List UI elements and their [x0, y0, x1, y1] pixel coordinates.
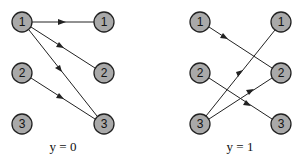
bipartite-diagram: 1 2 3 1 2 3 y = 0 1 2 3 1 2 3 y = 1 — [0, 0, 306, 163]
svg-text:2: 2 — [278, 66, 285, 80]
svg-text:1: 1 — [197, 15, 204, 29]
svg-text:3: 3 — [101, 117, 108, 131]
svg-text:2: 2 — [19, 66, 26, 80]
svg-text:3: 3 — [197, 117, 204, 131]
svg-text:1: 1 — [101, 15, 108, 29]
arrow-icon — [55, 65, 62, 72]
node-left-2: 2 — [12, 63, 32, 83]
node-left-3: 3 — [12, 114, 32, 134]
svg-text:3: 3 — [19, 117, 26, 131]
node-left-1: 1 — [190, 12, 210, 32]
node-left-2: 2 — [190, 63, 210, 83]
node-right-2: 2 — [271, 63, 291, 83]
node-right-3: 3 — [271, 114, 291, 134]
arrow-icon — [56, 42, 64, 48]
panel-y0-edges — [29, 19, 97, 119]
node-right-1: 1 — [94, 12, 114, 32]
caption-y1: y = 1 — [227, 139, 254, 154]
svg-text:1: 1 — [278, 15, 285, 29]
panel-y1-edges — [206, 27, 275, 119]
arrow-icon — [236, 70, 243, 77]
svg-text:2: 2 — [101, 66, 108, 80]
arrow-icon — [56, 93, 64, 99]
node-right-1: 1 — [271, 12, 291, 32]
arrow-icon — [58, 19, 66, 25]
svg-text:1: 1 — [19, 15, 26, 29]
svg-text:2: 2 — [197, 66, 204, 80]
svg-text:3: 3 — [278, 117, 285, 131]
caption-y0: y = 0 — [50, 139, 77, 154]
node-right-3: 3 — [94, 114, 114, 134]
node-right-2: 2 — [94, 63, 114, 83]
edge-1-3 — [29, 30, 97, 116]
node-left-1: 1 — [12, 12, 32, 32]
edge-1-2 — [209, 27, 272, 68]
node-left-3: 3 — [190, 114, 210, 134]
arrow-icon — [220, 33, 228, 39]
